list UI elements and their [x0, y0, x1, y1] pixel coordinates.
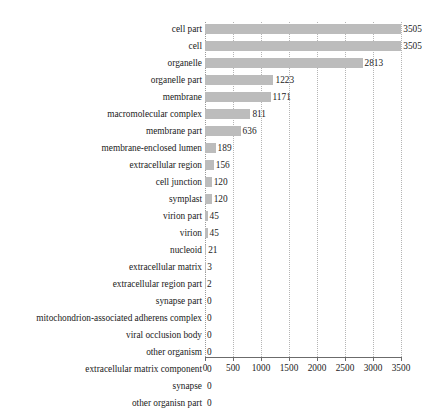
axis-tick-3000 — [373, 357, 374, 361]
bar-value-label: 0 — [207, 293, 212, 310]
axis-tick-label: 1000 — [252, 362, 271, 374]
axis-tick-0 — [205, 357, 206, 361]
axis-tick-3500 — [401, 357, 402, 361]
category-label: cell part — [172, 21, 202, 38]
bar-row: other organisn part0 — [0, 395, 414, 412]
category-label: viral occlusion body — [126, 327, 202, 344]
axis-tick-label: 3000 — [364, 362, 383, 374]
bar-value-label: 120 — [214, 174, 228, 191]
category-label: synapse part — [156, 293, 202, 310]
bar-value-label: 2 — [207, 276, 212, 293]
bar-value-label: 0 — [207, 310, 212, 327]
category-label: membrane — [163, 89, 202, 106]
category-label: extracellular region part — [113, 276, 202, 293]
bar-value-label: 1223 — [275, 72, 294, 89]
category-label: other organisn part — [132, 395, 202, 412]
bar-value-label: 3505 — [403, 38, 422, 55]
bar-value-label: 120 — [214, 191, 228, 208]
bar-row: cell junction120 — [0, 174, 414, 191]
bar-row: mitochondrion-associated adherens comple… — [0, 310, 414, 327]
bar-value-label: 0 — [207, 327, 212, 344]
x-axis-line — [205, 357, 401, 358]
bar — [205, 160, 214, 170]
category-label: membrane-enclosed lumen — [102, 140, 202, 157]
bar — [205, 41, 401, 51]
bar — [205, 177, 212, 187]
category-label: symplast — [169, 191, 202, 208]
bar-row: nucleoid21 — [0, 242, 414, 259]
bar-value-label: 45 — [210, 225, 219, 242]
category-label: membrane part — [146, 123, 202, 140]
axis-tick-label: 2000 — [308, 362, 327, 374]
bar — [205, 143, 216, 153]
bar-value-label: 0 — [207, 395, 212, 412]
bar-row: membrane part636 — [0, 123, 414, 140]
category-label: mitochondrion-associated adherens comple… — [36, 310, 202, 327]
bar-value-label: 1171 — [273, 89, 291, 106]
bar-value-label: 3 — [207, 259, 212, 276]
category-label: nucleoid — [170, 242, 202, 259]
category-label: virion part — [163, 208, 202, 225]
bar — [205, 228, 208, 238]
bar-row: virion45 — [0, 225, 414, 242]
bar-row: organelle2813 — [0, 55, 414, 72]
bar-row: extracellular region part2 — [0, 276, 414, 293]
axis-tick-1500 — [289, 357, 290, 361]
bar-row: cell part3505 — [0, 21, 414, 38]
bar-value-label: 189 — [218, 140, 232, 157]
bar — [205, 211, 208, 221]
category-label: virion — [180, 225, 202, 242]
bar-value-label: 811 — [252, 106, 266, 123]
bar-value-label: 156 — [216, 157, 230, 174]
category-label: cell — [189, 38, 202, 55]
bar — [205, 58, 363, 68]
bar-row: viral occlusion body0 — [0, 327, 414, 344]
bar — [205, 245, 206, 255]
axis-tick-label: 1500 — [280, 362, 299, 374]
axis-tick-500 — [233, 357, 234, 361]
bar-row: synapse0 — [0, 378, 414, 395]
bar-row: macromolecular complex811 — [0, 106, 414, 123]
bar — [205, 194, 212, 204]
bar-value-label: 21 — [208, 242, 217, 259]
category-label: macromolecular complex — [107, 106, 202, 123]
axis-tick-1000 — [261, 357, 262, 361]
bar-value-label: 0 — [207, 378, 212, 395]
category-label: organelle part — [151, 72, 202, 89]
bar-value-label: 45 — [210, 208, 219, 225]
axis-tick-2000 — [317, 357, 318, 361]
category-label: other organism — [146, 344, 202, 361]
axis-tick-label: 0 — [203, 362, 208, 374]
bar-row: membrane1171 — [0, 89, 414, 106]
bar-value-label: 3505 — [403, 21, 422, 38]
category-label: extracellular matrix — [129, 259, 202, 276]
bar-row: symplast120 — [0, 191, 414, 208]
bar-value-label: 0 — [207, 361, 212, 378]
axis-tick-label: 2500 — [336, 362, 355, 374]
bar — [205, 92, 271, 102]
bar — [205, 24, 401, 34]
bar — [205, 109, 250, 119]
category-label: organelle — [168, 55, 202, 72]
bar — [205, 126, 241, 136]
bar-row: virion part45 — [0, 208, 414, 225]
category-label: extracellular region — [129, 157, 202, 174]
bar — [205, 75, 273, 85]
bar-row: organelle part1223 — [0, 72, 414, 89]
bar-row: membrane-enclosed lumen189 — [0, 140, 414, 157]
bar-row: extracellular region156 — [0, 157, 414, 174]
axis-tick-2500 — [345, 357, 346, 361]
bar-row: synapse part0 — [0, 293, 414, 310]
category-label: synapse — [173, 378, 202, 395]
bar-row: cell3505 — [0, 38, 414, 55]
axis-tick-label: 3500 — [392, 362, 411, 374]
category-label: extracellular matrix component — [85, 361, 202, 378]
bar-value-label: 2813 — [365, 55, 384, 72]
axis-tick-label: 500 — [226, 362, 240, 374]
bar-value-label: 636 — [243, 123, 257, 140]
bar-row: extracellular matrix3 — [0, 259, 414, 276]
category-label: cell junction — [156, 174, 202, 191]
